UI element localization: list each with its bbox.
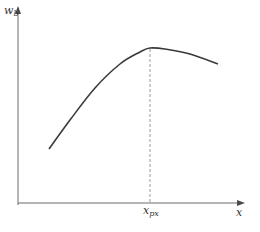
peak-tick-label: xpx xyxy=(143,204,159,218)
x-axis-label: x xyxy=(236,206,243,219)
chart: wb x xpx xyxy=(0,0,260,232)
y-axis-label: wb xyxy=(4,4,19,18)
curve-series xyxy=(49,48,218,149)
